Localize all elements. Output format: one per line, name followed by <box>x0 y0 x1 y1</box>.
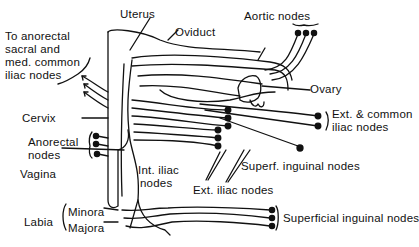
label-to-anorectal-2: sacral and <box>5 43 60 55</box>
label-anorectal-2: nodes <box>28 149 60 161</box>
label-majora: Majora <box>68 222 104 234</box>
label-labia: Labia <box>24 216 53 228</box>
label-aortic-nodes: Aortic nodes <box>244 10 310 22</box>
uterus-vagina-outline <box>108 30 260 235</box>
leader-lines <box>62 18 178 150</box>
aortic-vessels <box>258 24 318 80</box>
label-anorectal-1: Anorectal <box>28 136 78 148</box>
label-oviduct: Oviduct <box>175 26 215 38</box>
label-int-iliac-2: nodes <box>140 177 172 189</box>
label-ext-iliac: Ext. iliac nodes <box>193 184 274 196</box>
label-superficial-inguinal: Superficial inguinal nodes <box>283 212 419 224</box>
label-cervix: Cervix <box>22 112 56 124</box>
oviduct-vessels <box>132 55 292 102</box>
label-superf-inguinal: Superf. inguinal nodes <box>241 160 360 172</box>
label-ovary: Ovary <box>310 83 342 95</box>
anorectal-vessels <box>89 132 108 158</box>
label-to-anorectal-4: iliac nodes <box>5 69 62 81</box>
label-vagina: Vagina <box>20 168 56 180</box>
label-minora: Minora <box>68 206 104 218</box>
label-to-anorectal-1: To anorectal <box>5 30 70 42</box>
label-int-iliac-1: Int. iliac <box>138 164 179 176</box>
label-uterus: Uterus <box>120 8 155 20</box>
label-to-anorectal-3: med. common <box>5 56 80 68</box>
label-ext-common-1: Ext. & common <box>332 108 413 120</box>
label-ext-common-2: iliac nodes <box>332 121 389 133</box>
